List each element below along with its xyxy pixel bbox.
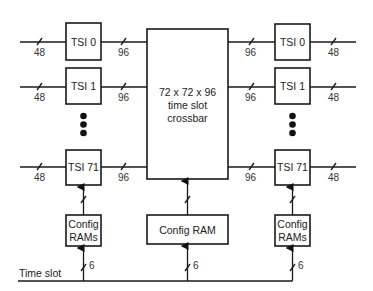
left-tsi-71-label: TSI 71 [68, 161, 99, 173]
left-row-tsi-0: 48 TSI 0 96 [20, 23, 147, 60]
left-in-width-71: 48 [34, 172, 46, 183]
left-row-tsi-71: 48 TSI 71 96 [20, 150, 147, 185]
left-config-rams-line1: Config [68, 218, 99, 230]
left-config-bus-width: 6 [89, 260, 95, 271]
right-ellipsis-dots-icon [289, 113, 296, 137]
right-row-tsi-0: 96 TSI 0 48 [228, 24, 356, 60]
left-tsi-1-label: TSI 1 [71, 80, 96, 92]
center-config-bus-width: 6 [193, 260, 199, 271]
left-config-rams-line2: RAMs [69, 231, 98, 243]
left-in-width-0: 48 [34, 47, 46, 58]
tsi-crossbar-diagram: 48 TSI 0 96 48 TSI 1 96 48 TSI 71 96 Con [0, 0, 373, 291]
right-row-tsi-71: 96 TSI 71 48 [228, 150, 356, 185]
left-tsi-0-label: TSI 0 [71, 36, 96, 48]
right-in-width-71: 96 [245, 172, 257, 183]
right-config-rams-line2: RAMs [278, 231, 307, 243]
left-out-width-0: 96 [118, 47, 130, 58]
right-out-width-0: 48 [328, 47, 340, 58]
crossbar-line1: 72 x 72 x 96 [159, 86, 216, 98]
right-tsi-0-label: TSI 0 [280, 36, 305, 48]
right-out-width-1: 48 [328, 92, 340, 103]
left-ellipsis-dots-icon [80, 113, 87, 137]
crossbar-line3: crossbar [167, 112, 208, 124]
right-in-width-1: 96 [245, 92, 257, 103]
crossbar-line2: time slot [168, 99, 207, 111]
right-out-width-71: 48 [328, 172, 340, 183]
left-out-width-1: 96 [118, 92, 130, 103]
right-tsi-71-label: TSI 71 [277, 161, 308, 173]
right-tsi-1-label: TSI 1 [280, 80, 305, 92]
right-config-rams-line1: Config [277, 218, 308, 230]
right-row-tsi-1: 96 TSI 1 48 [228, 68, 356, 104]
right-in-width-0: 96 [245, 47, 257, 58]
left-out-width-71: 96 [118, 172, 130, 183]
right-config-bus-width: 6 [298, 260, 304, 271]
time-slot-label: Time slot [19, 267, 61, 279]
left-in-width-1: 48 [34, 92, 46, 103]
left-row-tsi-1: 48 TSI 1 96 [20, 68, 147, 104]
center-config-ram-label: Config RAM [159, 224, 216, 236]
